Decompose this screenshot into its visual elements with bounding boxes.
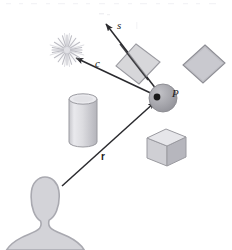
cylinder-object (69, 94, 97, 147)
vector-label-s: s (117, 20, 121, 31)
light-source-starburst (50, 33, 84, 67)
vector-label-r: r (101, 152, 105, 162)
illumination-diagram-figure: s c P r (0, 0, 232, 250)
point-label-p: P (172, 88, 179, 99)
cube-object (147, 129, 186, 166)
vector-label-c: c (95, 58, 100, 69)
viewer-silhouette (7, 177, 85, 250)
translucent-plane-quad (116, 44, 160, 84)
scan-noise (6, 3, 216, 29)
diagram-canvas (0, 0, 232, 250)
background-plane-quad (183, 45, 225, 83)
